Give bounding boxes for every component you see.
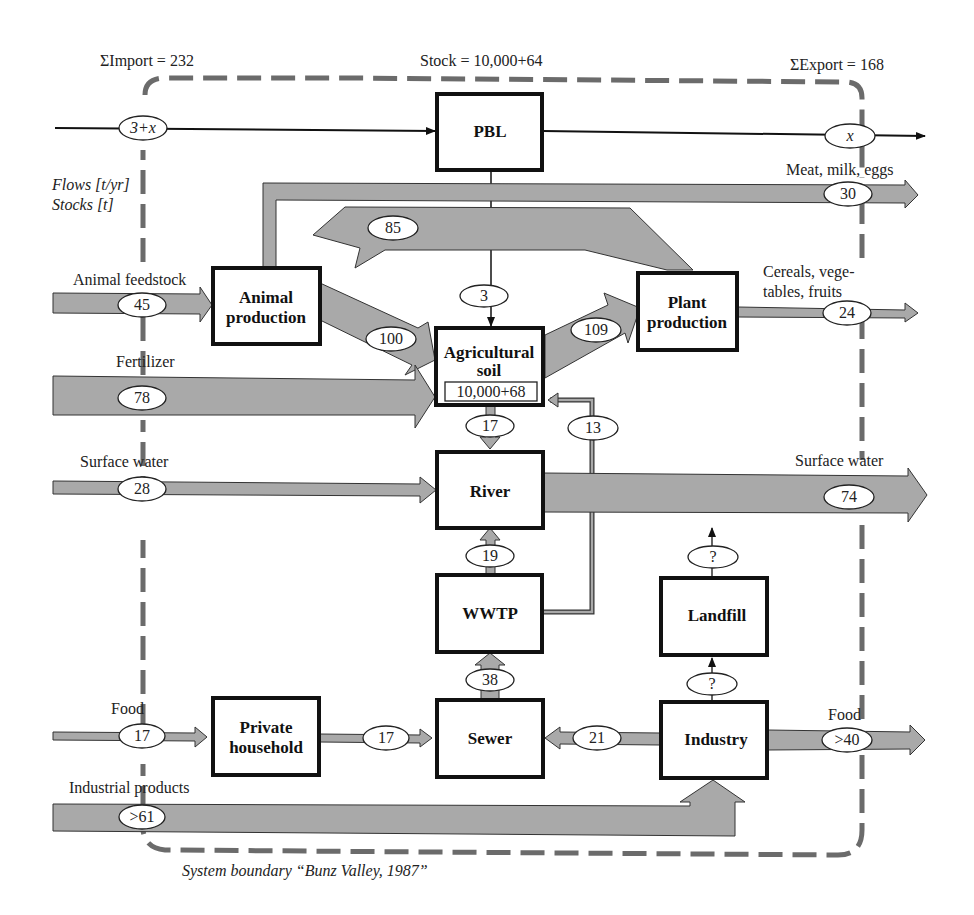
value-industry-to-sewer: 21 [573, 726, 621, 750]
import-total: ΣImport = 232 [100, 52, 194, 70]
flow-fertilizer [53, 365, 435, 428]
svg-text:?: ? [708, 675, 715, 692]
process-river[interactable]: River [437, 452, 543, 528]
svg-text:production: production [647, 313, 728, 332]
svg-text:soil: soil [477, 361, 502, 380]
value-meat-milk-eggs: 30 [824, 182, 872, 206]
value-food-out: >40 [822, 728, 872, 752]
svg-text:>40: >40 [834, 731, 859, 748]
soil-stock-value: 10,000+68 [456, 383, 525, 400]
label-meat-milk-eggs: Meat, milk, eggs [786, 161, 894, 179]
svg-text:Plant: Plant [668, 293, 707, 312]
value-import-pbl: 3+x [119, 116, 167, 140]
value-surface-water-in: 28 [118, 477, 166, 501]
svg-text:45: 45 [134, 296, 150, 313]
process-plant-production[interactable]: Plant production [638, 273, 737, 350]
svg-text:WWTP: WWTP [462, 604, 518, 623]
svg-text:?: ? [709, 548, 716, 565]
flow-import-pbl-line [55, 128, 435, 131]
svg-text:PBL: PBL [473, 122, 506, 141]
svg-text:17: 17 [134, 727, 150, 744]
value-fertilizer: 78 [118, 386, 166, 410]
process-sewer[interactable]: Sewer [437, 700, 543, 777]
process-animal-production[interactable]: Animal production [213, 268, 320, 344]
svg-text:24: 24 [839, 304, 855, 321]
svg-text:>61: >61 [129, 808, 154, 825]
svg-text:38: 38 [482, 671, 498, 688]
units-stocks: Stocks [t] [52, 196, 114, 213]
value-soil-to-river: 17 [466, 415, 514, 437]
boundary-caption: System boundary “Bunz Valley, 1987” [182, 862, 428, 880]
label-surface-water-out: Surface water [795, 452, 884, 469]
label-industrial-products: Industrial products [69, 779, 189, 797]
value-export-pbl: x [825, 124, 875, 148]
value-soil-to-plant: 109 [571, 318, 621, 342]
svg-text:100: 100 [379, 330, 403, 347]
process-agricultural-soil[interactable]: Agricultural soil 10,000+68 [436, 328, 543, 405]
value-industry-to-landfill: ? [687, 673, 737, 695]
svg-text:17: 17 [482, 417, 498, 434]
value-sewer-to-wwtp: 38 [466, 669, 514, 691]
process-private-household[interactable]: Private household [213, 698, 319, 775]
label-cereals-2: tables, fruits [763, 283, 842, 300]
value-wwtp-to-river: 19 [466, 545, 514, 567]
value-wwtp-to-soil: 13 [568, 416, 618, 440]
value-animal-feedstock: 45 [118, 293, 166, 317]
label-surface-water-in: Surface water [80, 453, 169, 470]
mfa-diagram: ΣImport = 232 Stock = 10,000+64 ΣExport … [0, 0, 974, 915]
stock-total: Stock = 10,000+64 [420, 52, 543, 69]
svg-text:13: 13 [585, 419, 601, 436]
label-fertilizer: Fertilizer [116, 353, 175, 370]
value-landfill-out: ? [688, 546, 738, 568]
svg-text:River: River [470, 482, 511, 501]
svg-text:Agricultural: Agricultural [444, 343, 535, 362]
svg-text:17: 17 [378, 729, 394, 746]
value-plant-to-animal: 85 [368, 216, 418, 240]
svg-text:production: production [226, 308, 307, 327]
svg-text:109: 109 [584, 321, 608, 338]
label-food-out: Food [828, 706, 861, 723]
process-pbl[interactable]: PBL [437, 94, 542, 170]
svg-text:78: 78 [134, 389, 150, 406]
value-household-to-sewer: 17 [363, 726, 409, 750]
value-cereals: 24 [823, 301, 871, 325]
units-flows: Flows [t/yr] [51, 176, 130, 194]
svg-text:x: x [845, 127, 853, 144]
flow-surface-water-in [53, 477, 436, 503]
svg-text:Private: Private [240, 718, 293, 737]
svg-text:30: 30 [840, 185, 856, 202]
export-total: ΣExport = 168 [790, 56, 884, 74]
value-food-in: 17 [119, 724, 165, 748]
svg-text:household: household [229, 738, 303, 757]
svg-text:85: 85 [385, 219, 401, 236]
svg-text:28: 28 [134, 480, 150, 497]
flow-plant-to-animal [313, 207, 693, 270]
process-landfill[interactable]: Landfill [661, 578, 767, 655]
value-industrial-products: >61 [119, 805, 165, 829]
label-food-in: Food [111, 700, 144, 717]
svg-text:Industry: Industry [684, 730, 748, 749]
svg-text:Animal: Animal [239, 288, 293, 307]
svg-text:74: 74 [841, 488, 857, 505]
value-surface-water-out: 74 [824, 485, 874, 509]
svg-text:3: 3 [480, 287, 488, 304]
process-wwtp[interactable]: WWTP [437, 575, 542, 652]
label-cereals-1: Cereals, vege- [763, 263, 855, 281]
process-industry[interactable]: Industry [661, 702, 767, 778]
svg-text:Sewer: Sewer [468, 729, 513, 748]
label-animal-feedstock: Animal feedstock [73, 271, 186, 288]
value-pbl-to-soil: 3 [460, 285, 508, 307]
svg-text:21: 21 [589, 729, 605, 746]
value-animal-to-soil: 100 [366, 327, 416, 351]
svg-text:19: 19 [482, 547, 498, 564]
svg-text:Landfill: Landfill [688, 606, 747, 625]
svg-text:3+x: 3+x [129, 119, 156, 136]
